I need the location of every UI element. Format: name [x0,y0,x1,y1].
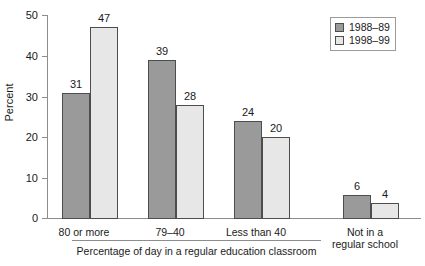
y-tick-label-10: 10 [14,173,38,184]
legend-item-1998-99[interactable]: 1998–99 [335,34,390,47]
value-label-1988-89-not-in-regular-school: 6 [343,181,371,192]
y-tick-label-40: 40 [14,51,38,62]
y-tick-label-10-wrap: 10 [10,173,38,184]
bar-1998-99-less-than-40 [262,137,290,219]
value-label-1988-89-less-than-40: 24 [234,107,262,118]
legend-label-1998-99: 1998–99 [349,35,390,46]
y-tick-label-30: 30 [14,92,38,103]
value-label-1988-89-79-40: 39 [148,46,176,57]
category-label-79-40: 79–40 [128,226,212,238]
y-tick-label-0: 0 [14,213,38,224]
legend-swatch-icon-1998-99 [335,36,344,45]
y-tick-label-20: 20 [14,132,38,143]
bar-1988-89-80-or-more [62,93,90,219]
bar-1988-89-less-than-40 [234,121,262,219]
bar-1998-99-80-or-more [90,27,118,219]
bar-chart: Percent 50 40 30 20 10 0 31 47 [0,0,425,266]
y-tick-label-50: 50 [14,10,38,21]
bar-1988-89-79-40 [148,60,176,219]
bar-1988-89-not-in-regular-school [343,195,371,219]
y-tick-label-40-wrap: 40 [10,51,38,62]
bar-1998-99-not-in-regular-school [371,203,399,219]
y-tick-label-20-wrap: 20 [10,132,38,143]
legend: 1988–89 1998–99 [330,17,396,51]
value-label-1988-89-80-or-more: 31 [62,79,90,90]
legend-label-1988-89: 1988–89 [349,22,390,33]
category-group-bracket [72,240,321,241]
value-label-1998-99-79-40: 28 [176,91,204,102]
category-label-less-than-40: Less than 40 [214,226,298,238]
x-axis-title: Percentage of day in a regular education… [40,245,353,257]
value-label-1998-99-80-or-more: 47 [90,13,118,24]
y-tick-label-0-wrap: 0 [10,213,38,224]
y-tick-label-50-wrap: 50 [10,10,38,21]
legend-item-1988-89[interactable]: 1988–89 [335,21,390,34]
value-label-1998-99-less-than-40: 20 [262,123,290,134]
category-label-80-or-more: 80 or more [42,226,126,238]
y-tick-label-30-wrap: 30 [10,92,38,103]
category-label-not-in-regular-school-line1: Not in a [323,226,407,238]
value-label-1998-99-not-in-regular-school: 4 [371,189,399,200]
bar-1998-99-79-40 [176,105,204,219]
legend-swatch-icon-1988-89 [335,23,344,32]
